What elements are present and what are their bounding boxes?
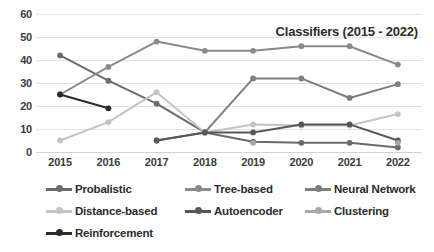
y-tick-label-60: 60 xyxy=(20,9,32,19)
data-point xyxy=(298,76,304,82)
y-tick-label-0: 0 xyxy=(26,147,32,157)
data-point xyxy=(298,122,304,128)
data-point xyxy=(250,122,256,128)
legend-item-autoencoder[interactable]: Autoencoder xyxy=(185,205,283,217)
legend-swatch-icon xyxy=(46,183,72,195)
y-tick-label-40: 40 xyxy=(20,55,32,65)
x-tick-label-2018: 2018 xyxy=(182,156,228,168)
chart-legend: ProbalisticTree-basedNeural NetworkDista… xyxy=(0,180,434,252)
chart-container: 0102030405060 20152016201720182019202020… xyxy=(0,0,434,252)
data-point xyxy=(202,48,208,54)
data-point xyxy=(250,130,256,136)
gridline-0 xyxy=(36,152,422,153)
legend-item-clustering[interactable]: Clustering xyxy=(305,205,389,217)
data-point xyxy=(347,43,353,49)
x-tick-label-2017: 2017 xyxy=(134,156,180,168)
legend-swatch-icon xyxy=(185,205,211,217)
legend-label: Tree-based xyxy=(214,183,273,195)
x-axis-labels: 20152016201720182019202020212022 xyxy=(36,156,422,176)
x-tick-label-2021: 2021 xyxy=(327,156,373,168)
y-tick-label-50: 50 xyxy=(20,32,32,42)
legend-label: Clustering xyxy=(334,205,389,217)
data-point xyxy=(347,140,353,146)
legend-item-probalistic[interactable]: Probalistic xyxy=(46,183,132,195)
x-tick-label-2019: 2019 xyxy=(230,156,276,168)
series-neural-network xyxy=(154,76,401,144)
legend-swatch-icon xyxy=(46,205,72,217)
legend-label: Reinforcement xyxy=(75,227,153,239)
data-point xyxy=(395,81,401,87)
data-point xyxy=(298,140,304,146)
series-line xyxy=(60,95,108,109)
data-point xyxy=(347,95,353,101)
x-tick-label-2022: 2022 xyxy=(375,156,421,168)
series-reinforcement xyxy=(57,92,111,112)
x-tick-label-2020: 2020 xyxy=(278,156,324,168)
data-point xyxy=(347,122,353,128)
data-point xyxy=(154,89,160,95)
data-point xyxy=(395,140,401,146)
series-line xyxy=(157,78,398,140)
data-point xyxy=(105,105,111,111)
y-axis-labels: 0102030405060 xyxy=(0,14,32,152)
data-point xyxy=(395,111,401,117)
x-tick-label-2015: 2015 xyxy=(37,156,83,168)
data-point xyxy=(154,39,160,45)
series-line xyxy=(60,55,398,147)
legend-swatch-icon xyxy=(185,183,211,195)
data-point xyxy=(154,138,160,144)
legend-swatch-icon xyxy=(305,205,331,217)
legend-label: Neural Network xyxy=(334,183,416,195)
legend-item-neural-network[interactable]: Neural Network xyxy=(305,183,416,195)
y-tick-label-10: 10 xyxy=(20,124,32,134)
data-point xyxy=(298,43,304,49)
legend-item-distance-based[interactable]: Distance-based xyxy=(46,205,157,217)
data-point xyxy=(250,48,256,54)
x-tick-label-2016: 2016 xyxy=(85,156,131,168)
data-point xyxy=(105,78,111,84)
legend-swatch-icon xyxy=(46,227,72,239)
legend-label: Probalistic xyxy=(75,183,132,195)
legend-item-reinforcement[interactable]: Reinforcement xyxy=(46,227,153,239)
data-point xyxy=(57,53,63,59)
data-point xyxy=(105,64,111,70)
data-point xyxy=(250,140,256,146)
chart-title: Classifiers (2015 - 2022) xyxy=(276,24,418,39)
legend-swatch-icon xyxy=(305,183,331,195)
legend-item-tree-based[interactable]: Tree-based xyxy=(185,183,273,195)
data-point xyxy=(202,130,208,136)
data-point xyxy=(57,92,63,98)
y-tick-label-30: 30 xyxy=(20,78,32,88)
y-tick-label-20: 20 xyxy=(20,101,32,111)
series-tree-based xyxy=(57,39,401,98)
data-point xyxy=(105,119,111,125)
data-point xyxy=(57,138,63,144)
series-line xyxy=(157,124,398,140)
legend-label: Autoencoder xyxy=(214,205,283,217)
data-point xyxy=(250,76,256,82)
data-point xyxy=(395,62,401,68)
data-point xyxy=(154,101,160,107)
legend-label: Distance-based xyxy=(75,205,157,217)
